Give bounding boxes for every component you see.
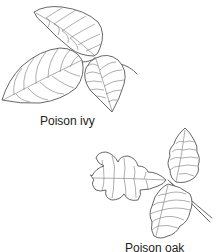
oak-top-leaflet xyxy=(168,128,199,183)
ivy-top-leaflet xyxy=(34,7,103,56)
plant-identification-figure: Poison ivy xyxy=(0,0,224,252)
oak-left-leaflet xyxy=(90,152,166,200)
poison-ivy-illustration xyxy=(0,0,224,120)
poison-oak-label: Poison oak xyxy=(125,241,184,252)
ivy-right-leaflet xyxy=(85,55,125,112)
poison-ivy-label: Poison ivy xyxy=(40,114,95,128)
oak-bottom-leaflet xyxy=(150,184,192,238)
ivy-left-leaflet xyxy=(2,48,83,103)
